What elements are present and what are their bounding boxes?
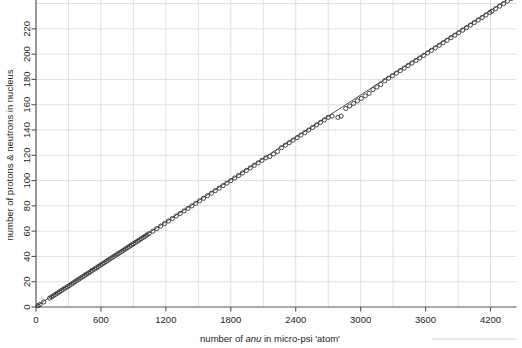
y-tick-label: 160 (21, 97, 32, 113)
y-tick-label: 20 (21, 276, 32, 287)
plot-background (0, 0, 522, 348)
y-tick-label: 200 (21, 46, 32, 62)
y-tick-label: 80 (21, 201, 32, 212)
x-tick-label: 2400 (285, 314, 306, 325)
x-tick-label: 3600 (415, 314, 436, 325)
y-tick-label: 140 (21, 122, 32, 138)
scatter-plot-figure: 0600120018002400300036004200 02040608010… (0, 0, 522, 348)
x-tick-label: 1200 (155, 314, 176, 325)
y-tick-label: 100 (21, 173, 32, 189)
x-tick-label: 600 (93, 314, 109, 325)
x-tick-label: 3000 (350, 314, 371, 325)
x-axis-title: number of anu in micro-psi 'atom' (200, 333, 340, 344)
x-tick-label: 1800 (220, 314, 241, 325)
y-tick-label: 220 (21, 21, 32, 37)
y-tick-label: 180 (21, 72, 32, 88)
y-tick-label: 0 (21, 304, 32, 309)
y-tick-label: 120 (21, 147, 32, 163)
chart-canvas: 0600120018002400300036004200 02040608010… (0, 0, 522, 348)
x-tick-label: 4200 (480, 314, 501, 325)
y-tick-label: 40 (21, 251, 32, 262)
y-tick-label: 60 (21, 226, 32, 237)
x-tick-label: 0 (33, 314, 38, 325)
y-axis-title: number of protons & neutrons in nucleus (4, 69, 15, 240)
